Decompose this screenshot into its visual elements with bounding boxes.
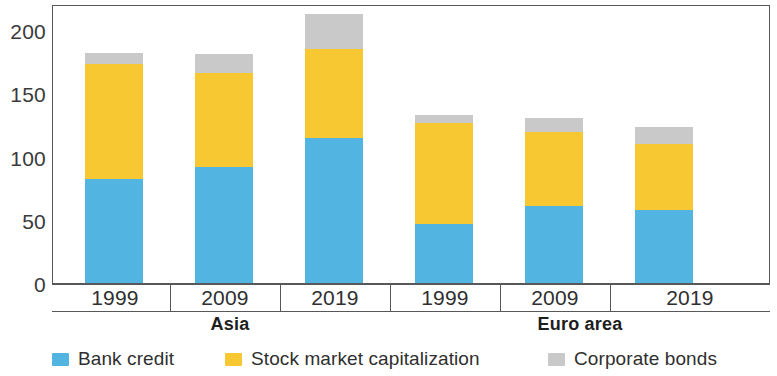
y-axis: 200 150 100 50 0 — [0, 0, 46, 300]
bar-segment-stock-market-capitalization — [635, 144, 693, 211]
chart-legend: Bank credit Stock market capitalization … — [0, 346, 777, 376]
bars-layer — [53, 6, 769, 283]
bar-segment-corporate-bonds — [85, 53, 143, 64]
legend-item-bank-credit: Bank credit — [52, 346, 174, 372]
plot-area — [52, 5, 770, 284]
bar-segment-bank-credit — [85, 179, 143, 283]
bar-segment-corporate-bonds — [525, 118, 583, 132]
bar-segment-stock-market-capitalization — [85, 64, 143, 178]
x-axis: 1999 2009 2019 1999 2009 2019 — [52, 284, 770, 312]
legend-label-stock-market-capitalization: Stock market capitalization — [251, 348, 480, 370]
legend-swatch-stock-market-capitalization — [225, 353, 242, 366]
x-tick-label-euro-1999: 1999 — [390, 285, 500, 311]
bar-segment-stock-market-capitalization — [195, 73, 253, 167]
bar-segment-stock-market-capitalization — [415, 123, 473, 224]
legend-label-corporate-bonds: Corporate bonds — [574, 348, 717, 370]
bar-euro-area-2019 — [635, 127, 693, 283]
bar-segment-bank-credit — [305, 138, 363, 283]
bar-segment-corporate-bonds — [195, 54, 253, 73]
bar-euro-area-2009 — [525, 118, 583, 283]
bar-asia-2009 — [195, 54, 253, 283]
y-tick-label-0: 0 — [0, 274, 46, 295]
x-tick-label-asia-2019: 2019 — [280, 285, 390, 311]
y-tick-label-100: 100 — [0, 148, 46, 169]
legend-item-stock-market-capitalization: Stock market capitalization — [225, 346, 480, 372]
bar-segment-stock-market-capitalization — [525, 132, 583, 206]
x-tick-label-euro-2019: 2019 — [610, 285, 770, 311]
bar-segment-corporate-bonds — [305, 14, 363, 49]
stacked-bar-chart: 200 150 100 50 0 1999 2009 2019 1999 200… — [0, 0, 777, 376]
x-tick-label-asia-2009: 2009 — [170, 285, 280, 311]
y-tick-label-150: 150 — [0, 84, 46, 105]
group-label-asia: Asia — [170, 314, 290, 335]
bar-segment-corporate-bonds — [635, 127, 693, 143]
group-label-euro-area: Euro area — [500, 314, 660, 335]
legend-label-bank-credit: Bank credit — [78, 348, 174, 370]
bar-asia-1999 — [85, 53, 143, 283]
y-tick-label-50: 50 — [0, 211, 46, 232]
bar-segment-bank-credit — [635, 210, 693, 283]
bar-euro-area-1999 — [415, 115, 473, 283]
bar-asia-2019 — [305, 14, 363, 283]
bar-segment-bank-credit — [195, 167, 253, 283]
bar-segment-stock-market-capitalization — [305, 49, 363, 138]
legend-item-corporate-bonds: Corporate bonds — [548, 346, 717, 372]
x-tick-label-euro-2009: 2009 — [500, 285, 610, 311]
legend-swatch-bank-credit — [52, 353, 69, 366]
legend-swatch-corporate-bonds — [548, 353, 565, 366]
x-tick-label-asia-1999: 1999 — [60, 285, 170, 311]
y-tick-label-200: 200 — [0, 21, 46, 42]
bar-segment-corporate-bonds — [415, 115, 473, 124]
bar-segment-bank-credit — [415, 224, 473, 283]
bar-segment-bank-credit — [525, 206, 583, 283]
